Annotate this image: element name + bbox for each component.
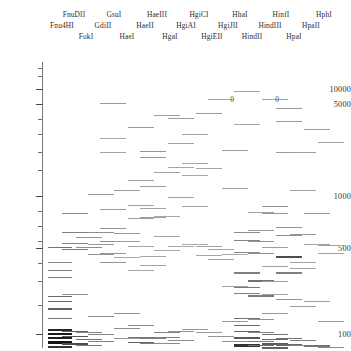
gel-lane bbox=[0, 0, 351, 351]
gel-figure-root: Fnu4HIFnuDIIFokIGdiIIGsuIHaeIHaeIIHaeIII… bbox=[0, 0, 351, 351]
zero-marker: 0 bbox=[230, 95, 234, 104]
gel-band bbox=[318, 321, 344, 322]
gel-band bbox=[318, 245, 344, 246]
gel-band bbox=[318, 142, 344, 143]
zero-marker: 0 bbox=[275, 95, 279, 104]
gel-band bbox=[318, 347, 344, 348]
gel-band bbox=[318, 253, 344, 254]
gel-plot-area: 1000050001000500100 00 bbox=[0, 0, 351, 351]
